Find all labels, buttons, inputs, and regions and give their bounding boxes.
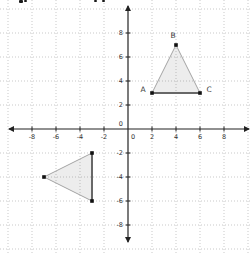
x-tick-label: -8 <box>29 133 35 141</box>
vertex-label-A: A <box>140 85 146 94</box>
y-tick-label: 0 <box>119 120 123 128</box>
cropped-text-fragment <box>102 0 105 2</box>
y-tick-label: -2 <box>117 149 123 157</box>
x-tick-label: -2 <box>101 133 107 141</box>
x-tick-label: 2 <box>150 133 154 141</box>
y-tick-label: -8 <box>117 221 123 229</box>
x-tick-label: 0 <box>131 133 135 141</box>
vertex-point-A <box>150 91 154 95</box>
y-tick-label: 8 <box>119 29 123 37</box>
y-tick-label: -4 <box>117 173 123 181</box>
y-tick-label: 6 <box>119 53 123 61</box>
coordinate-plane: -8-6-4-20246886420-2-4-6-8ABC <box>0 0 252 255</box>
triangle-image <box>44 153 92 201</box>
graph-svg: -8-6-4-20246886420-2-4-6-8ABC <box>0 0 252 255</box>
vertex-point-B <box>174 43 178 47</box>
axis-arrowhead-icon <box>125 237 131 243</box>
y-tick-label: -6 <box>117 197 123 205</box>
cropped-text-fragment <box>94 0 97 2</box>
x-tick-label: 8 <box>222 133 226 141</box>
y-tick-label: 2 <box>119 101 123 109</box>
axis-arrowhead-icon <box>244 126 250 132</box>
cropped-text-fragment <box>24 0 27 2</box>
vertex-point <box>90 151 94 155</box>
top-text-fragments <box>0 0 252 10</box>
x-tick-label: 4 <box>174 133 178 141</box>
vertex-point <box>42 175 46 179</box>
y-tick-label: 4 <box>119 77 123 85</box>
vertex-label-C: C <box>206 85 211 94</box>
axis-arrowhead-icon <box>8 126 14 132</box>
vertex-point <box>90 199 94 203</box>
x-tick-label: -6 <box>53 133 59 141</box>
triangle-ABC <box>152 45 200 93</box>
x-tick-label: 6 <box>198 133 202 141</box>
vertex-label-B: B <box>170 31 175 40</box>
cropped-text-fragment <box>19 0 23 3</box>
vertex-point-C <box>198 91 202 95</box>
x-tick-label: -4 <box>77 133 83 141</box>
